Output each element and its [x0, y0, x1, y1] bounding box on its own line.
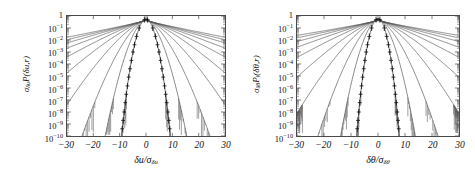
y-tick-label: 10−1: [278, 22, 293, 34]
x-tick-label: 30: [446, 140, 474, 150]
y-tick-label: 1: [59, 10, 63, 20]
panel-left: σδuP(δu,r) 110−110−210−310−410−510−610−7…: [0, 0, 237, 185]
plot-curves-left: [67, 16, 225, 136]
x-tick-label: −20: [309, 140, 337, 150]
y-tick-label: 10−6: [278, 83, 293, 95]
y-tick-label: 10−8: [278, 107, 293, 119]
y-tick-label: 10−6: [48, 83, 63, 95]
x-tick-label: 20: [185, 140, 213, 150]
plot-area-right: [296, 15, 460, 137]
figure-container: σδuP(δu,r) 110−110−210−310−410−510−610−7…: [0, 0, 475, 185]
y-axis-label-left: σδuP(δu,r): [21, 24, 31, 124]
y-tick-label: 10−8: [48, 107, 63, 119]
y-tick-label: 10−2: [278, 34, 293, 46]
x-tick-label: 0: [364, 140, 392, 150]
x-tick-label: −10: [105, 140, 133, 150]
panel-right: σδθP‖(δθ,r) 110−110−210−310−410−510−610−…: [238, 0, 475, 185]
plot-area-left: [66, 15, 226, 137]
x-tick-label: −30: [282, 140, 310, 150]
plot-curves-right: [297, 16, 459, 136]
y-tick-label: 10−1: [48, 22, 63, 34]
x-tick-label: −30: [52, 140, 80, 150]
y-axis-label-right: σδθP‖(δθ,r): [251, 24, 261, 124]
y-tick-label: 10−4: [48, 58, 63, 70]
x-tick-label: 20: [419, 140, 447, 150]
x-tick-label: 10: [159, 140, 187, 150]
y-tick-label: 10−9: [48, 119, 63, 131]
x-tick-label: −10: [337, 140, 365, 150]
y-tick-label: 10−7: [278, 95, 293, 107]
y-tick-label: 1: [289, 10, 293, 20]
x-tick-label: 10: [391, 140, 419, 150]
y-tick-label: 10−2: [48, 34, 63, 46]
x-tick-label: −20: [79, 140, 107, 150]
x-tick-label: 0: [132, 140, 160, 150]
x-tick-label: 30: [212, 140, 240, 150]
y-tick-label: 10−9: [278, 119, 293, 131]
y-tick-label: 10−5: [48, 71, 63, 83]
y-tick-label: 10−4: [278, 58, 293, 70]
x-axis-label-left: δu/σδu: [66, 154, 226, 165]
y-tick-label: 10−3: [48, 46, 63, 58]
y-tick-label: 10−7: [48, 95, 63, 107]
x-axis-label-right: δθ/σδθ: [296, 154, 460, 165]
y-tick-label: 10−3: [278, 46, 293, 58]
y-tick-label: 10−5: [278, 71, 293, 83]
